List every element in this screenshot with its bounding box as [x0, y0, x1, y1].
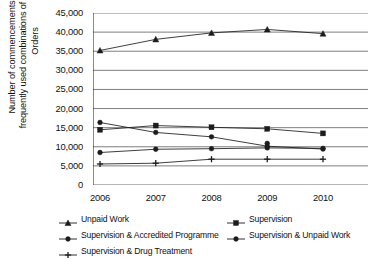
y-axis-tick-label: 15,000: [56, 123, 83, 132]
x-axis-tick-label: 2006: [90, 193, 110, 202]
x-axis-tick-labels: 20062007200820092010: [93, 193, 368, 209]
data-point-marker: [209, 134, 214, 139]
y-axis-tick-label: 40,000: [56, 27, 83, 36]
y-axis-tick-label: 45,000: [56, 8, 83, 17]
circle-marker-icon: [226, 230, 246, 240]
legend-item-label: Supervision & Accredited Programme: [81, 231, 219, 240]
legend-item-label: Supervision & Drug Treatment: [81, 247, 192, 256]
y-axis-tick-label: 0: [78, 180, 83, 189]
circle-marker-icon: [58, 230, 78, 240]
data-point-marker: [265, 126, 270, 131]
extra-data-point: [265, 141, 270, 146]
data-point-marker: [98, 127, 103, 132]
square-marker-icon: [226, 214, 246, 224]
plot-svg: [93, 13, 368, 185]
y-axis-tick-labels: 05,00010,00015,00020,00025,00030,00035,0…: [0, 13, 90, 185]
y-axis-tick-label: 5,000: [61, 161, 83, 170]
y-axis-tick-label: 10,000: [56, 142, 83, 151]
x-axis-tick-label: 2010: [313, 193, 333, 202]
data-point-marker: [265, 141, 270, 146]
y-axis-tick-label: 35,000: [56, 47, 83, 56]
y-axis-tick-label: 20,000: [56, 104, 83, 113]
data-point-marker: [153, 147, 158, 152]
triangle-marker-icon: [58, 214, 78, 224]
x-axis-tick-label: 2008: [201, 193, 221, 202]
legend-item[interactable]: Supervision & Unpaid Work: [226, 230, 350, 240]
data-point-marker: [321, 131, 326, 136]
data-point-marker: [321, 146, 326, 151]
series-supervision: [98, 123, 326, 136]
data-point-marker: [209, 125, 214, 130]
legend-item[interactable]: Supervision & Accredited Programme: [58, 230, 219, 240]
legend-item-label: Supervision: [249, 215, 292, 224]
legend-item[interactable]: Supervision: [226, 214, 292, 224]
data-point-marker: [265, 146, 270, 151]
data-point-marker: [234, 237, 239, 242]
legend-item[interactable]: Supervision & Drug Treatment: [58, 246, 192, 256]
y-axis-tick-label: 30,000: [56, 66, 83, 75]
plus-marker-icon: [58, 246, 78, 256]
plot-area: [93, 13, 368, 185]
data-point-marker: [153, 123, 158, 128]
series-supervision-drug-treatment: [97, 156, 326, 167]
chart-legend: Unpaid WorkSupervisionSupervision & Accr…: [58, 214, 376, 262]
data-point-marker: [209, 146, 214, 151]
data-point-marker: [98, 150, 103, 155]
legend-item-label: Supervision & Unpaid Work: [249, 231, 350, 240]
y-axis-tick-label: 25,000: [56, 85, 83, 94]
legend-item-label: Unpaid Work: [81, 215, 129, 224]
data-point-marker: [234, 221, 239, 226]
data-point-marker: [66, 237, 71, 242]
x-axis-tick-label: 2009: [257, 193, 277, 202]
series-unpaid-work: [97, 26, 326, 53]
x-axis-tick-label: 2007: [146, 193, 166, 202]
legend-item[interactable]: Unpaid Work: [58, 214, 129, 224]
line-chart: Number of commencements of most frequent…: [0, 0, 378, 266]
data-point-marker: [153, 130, 158, 135]
data-point-marker: [98, 120, 103, 125]
